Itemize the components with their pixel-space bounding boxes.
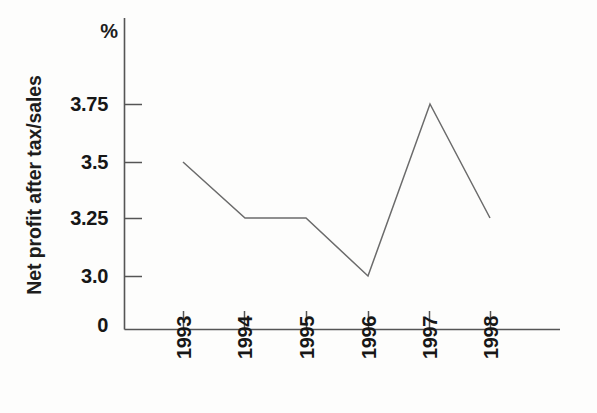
x-tick-label-1996: 1996 (358, 281, 380, 359)
x-tick-marks (184, 311, 491, 329)
y-tick-label-3-0: 3.0 (24, 265, 108, 287)
chart-figure: Net profit after tax/sales % 3.75 3.5 3 (0, 0, 597, 413)
x-tick-label-1995: 1995 (296, 281, 318, 359)
data-line-net-profit (183, 104, 490, 276)
y-tick-label-0: 0 (24, 314, 108, 336)
y-tick-label-3-5: 3.5 (24, 151, 108, 173)
x-tick-label-1997: 1997 (419, 281, 441, 359)
y-tick-label-3-25: 3.25 (24, 207, 108, 229)
x-tick-label-1998: 1998 (480, 281, 502, 359)
y-tick-marks (125, 105, 142, 277)
y-tick-label-3-75: 3.75 (24, 93, 108, 115)
x-tick-label-1994: 1994 (234, 281, 256, 359)
x-tick-label-1993: 1993 (173, 281, 195, 359)
